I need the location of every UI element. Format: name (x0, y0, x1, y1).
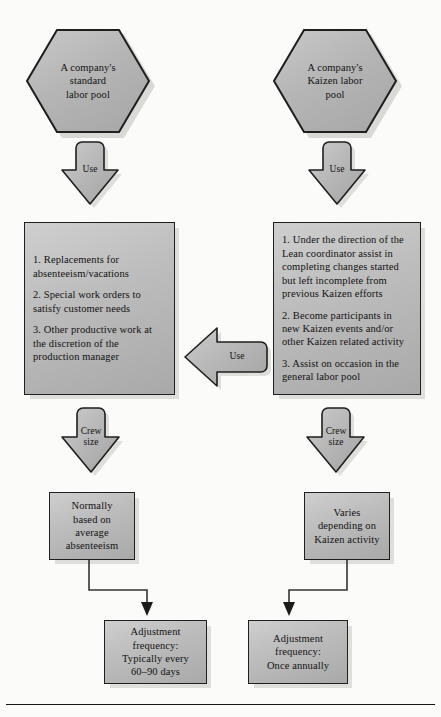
arrow-label-line-1: Crew (326, 426, 347, 437)
arrow-label-line-2: size (81, 437, 102, 448)
box-left-adjustment-frequency[interactable]: Adjustment frequency: Typically every 60… (104, 620, 207, 684)
arrow-use-left[interactable]: Use (60, 140, 120, 206)
box-line-4: absenteeism (58, 539, 126, 552)
node-line-1: A company's (60, 61, 115, 74)
box-label: Normally based on average absenteeism (58, 499, 126, 553)
arrow-label: Use (330, 164, 345, 175)
box-line-1: Adjustment (257, 632, 339, 645)
box-content: Adjustment frequency: Typically every 60… (105, 619, 206, 685)
box-line-3: Once annually (257, 659, 339, 672)
node-label: A company's Kaizen labor pool (307, 61, 362, 101)
box-standard-pool-tasks[interactable]: 1. Replacements for absenteeism/vacation… (24, 222, 175, 395)
task-item: 1. Replacements for absenteeism/vacation… (33, 253, 166, 280)
box-line-3: Kaizen activity (313, 533, 381, 546)
box-label: Adjustment frequency: Once annually (257, 632, 339, 672)
box-content: Adjustment frequency: Once annually (249, 626, 347, 678)
box-line-3: Typically every (113, 652, 198, 665)
box-content: Normally based on average absenteeism (50, 493, 134, 559)
node-line-2: Kaizen labor (307, 74, 362, 87)
arrow-label: Use (230, 351, 245, 362)
left-arrow-icon (183, 325, 269, 389)
box-content: 1. Under the direction of the Lean coord… (274, 227, 420, 389)
task-item: 3. Other productive work at the discreti… (33, 323, 166, 363)
node-label: A company's standard labor pool (60, 61, 115, 101)
box-line-3: average (58, 526, 126, 539)
arrow-use-right[interactable]: Use (307, 140, 367, 206)
arrow-crew-size-left[interactable]: Crew size (60, 406, 122, 474)
task-item: 3. Assist on occasion in the general lab… (282, 357, 412, 384)
box-label: Varies depending on Kaizen activity (313, 506, 381, 546)
arrow-use-middle[interactable]: Use (183, 325, 269, 389)
box-line-1: Adjustment (113, 625, 198, 638)
task-list: 1. Replacements for absenteeism/vacation… (33, 253, 166, 363)
box-line-1: Normally (58, 499, 126, 512)
arrow-label-line-1: Crew (81, 426, 102, 437)
connector-right-elbow (270, 558, 360, 622)
box-kaizen-pool-tasks[interactable]: 1. Under the direction of the Lean coord… (273, 222, 421, 395)
box-right-crew-size[interactable]: Varies depending on Kaizen activity (304, 492, 390, 560)
box-content: 1. Replacements for absenteeism/vacation… (25, 247, 174, 369)
box-line-2: based on (58, 513, 126, 526)
box-line-1: Varies (313, 506, 381, 519)
box-label: Adjustment frequency: Typically every 60… (113, 625, 198, 679)
node-line-3: pool (307, 88, 362, 101)
box-line-4: 60–90 days (113, 665, 198, 678)
node-standard-labor-pool[interactable]: A company's standard labor pool (26, 29, 150, 133)
node-line-2: standard (60, 74, 115, 87)
flowchart-canvas: A company's standard labor pool A compan… (0, 0, 441, 717)
footer-divider (6, 704, 435, 705)
arrow-label-line-2: size (326, 437, 347, 448)
box-line-2: frequency: (113, 639, 198, 652)
box-line-2: depending on (313, 519, 381, 532)
task-item: 2. Become participants in new Kaizen eve… (282, 309, 412, 349)
box-line-2: frequency: (257, 645, 339, 658)
box-left-crew-size[interactable]: Normally based on average absenteeism (49, 492, 135, 560)
task-item: 2. Special work orders to satisfy custom… (33, 288, 166, 315)
task-item: 1. Under the direction of the Lean coord… (282, 233, 412, 300)
node-line-3: labor pool (60, 88, 115, 101)
arrow-crew-size-right[interactable]: Crew size (305, 406, 367, 474)
task-list: 1. Under the direction of the Lean coord… (282, 233, 412, 383)
box-right-adjustment-frequency[interactable]: Adjustment frequency: Once annually (248, 620, 348, 684)
arrow-label: Use (83, 164, 98, 175)
arrow-label: Crew size (81, 426, 102, 449)
arrow-label: Crew size (326, 426, 347, 449)
connector-left-elbow (80, 558, 170, 622)
box-content: Varies depending on Kaizen activity (305, 500, 389, 552)
node-line-1: A company's (307, 61, 362, 74)
node-kaizen-labor-pool[interactable]: A company's Kaizen labor pool (273, 29, 397, 133)
